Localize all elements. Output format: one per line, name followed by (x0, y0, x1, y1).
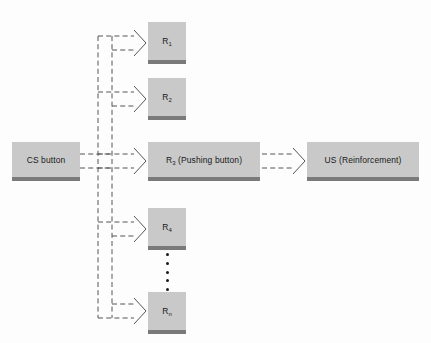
node-us-reinforcement[interactable]: US (Reinforcement) (307, 142, 419, 181)
ellipsis-dot (166, 262, 169, 265)
node-us-label: US (Reinforcement) (325, 155, 402, 165)
ellipsis-dot (166, 271, 169, 274)
ellipsis-dots (162, 253, 172, 291)
node-r3-pushing-button[interactable]: R3 (Pushing button) (148, 142, 260, 181)
trunk-rails (98, 36, 112, 318)
diagram-canvas: CS button R1 R2 R3 (Pushing button) R4 R… (0, 0, 431, 343)
ellipsis-dot (166, 279, 169, 282)
node-rn-label: Rn (162, 306, 172, 316)
node-r1[interactable]: R1 (148, 22, 186, 64)
node-cs-button-label: CS button (27, 155, 66, 165)
node-base-bar (148, 246, 186, 250)
node-base-bar (148, 177, 260, 181)
edge-cs-to-rn (98, 298, 146, 324)
ellipsis-dot (166, 288, 169, 291)
node-r2-label: R2 (162, 92, 172, 102)
node-r2[interactable]: R2 (148, 78, 186, 120)
node-base-bar (148, 60, 186, 64)
node-rn[interactable]: Rn (148, 292, 186, 334)
node-r1-label: R1 (162, 36, 172, 46)
edge-cs-to-r1 (98, 30, 146, 56)
edge-cs-to-trunk (80, 154, 112, 168)
edge-cs-to-r3 (98, 148, 146, 174)
node-base-bar (307, 177, 419, 181)
edge-cs-to-r4 (98, 216, 146, 242)
edge-r3-to-us (262, 148, 305, 174)
edge-cs-to-r2 (98, 86, 146, 112)
node-cs-button[interactable]: CS button (12, 142, 80, 181)
ellipsis-dot (166, 253, 169, 256)
node-r4-label: R4 (162, 222, 172, 232)
node-base-bar (148, 116, 186, 120)
node-base-bar (12, 177, 80, 181)
node-base-bar (148, 330, 186, 334)
node-r3-label: R3 (Pushing button) (166, 155, 242, 165)
node-r4[interactable]: R4 (148, 208, 186, 250)
